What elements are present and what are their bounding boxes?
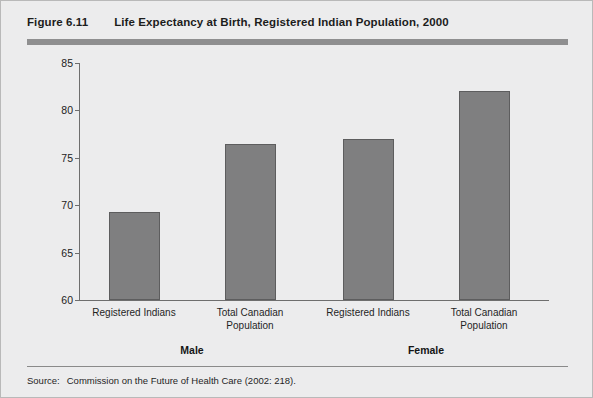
x-category-label: Registered Indians	[69, 306, 199, 319]
y-tick-mark	[75, 158, 79, 159]
chart-axes	[79, 63, 549, 301]
figure-title: Life Expectancy at Birth, Registered Ind…	[114, 16, 448, 28]
source-label: Source:	[27, 375, 60, 386]
y-axis-tick-labels: 606570758085	[47, 53, 73, 301]
figure-header: Figure 6.11 Life Expectancy at Birth, Re…	[27, 16, 566, 34]
y-tick-mark	[75, 300, 79, 301]
y-tick-mark	[75, 110, 79, 111]
y-tick-label: 75	[47, 152, 73, 164]
x-category-label-line1: Total Canadian	[185, 306, 315, 319]
bar-series	[79, 63, 549, 300]
source-text: Commission on the Future of Health Care …	[67, 375, 296, 386]
y-tick-label: 85	[47, 57, 73, 69]
x-axis-category-labels: Registered IndiansTotal CanadianPopulati…	[79, 306, 549, 340]
x-axis-group-labels: MaleFemale	[79, 344, 549, 360]
bar	[109, 212, 160, 300]
x-category-label-line2: Population	[185, 319, 315, 332]
x-category-label: Total CanadianPopulation	[185, 306, 315, 332]
x-category-label-line2: Population	[419, 319, 549, 332]
y-tick-label: 65	[47, 247, 73, 259]
x-group-label: Male	[117, 344, 267, 356]
y-tick-label: 80	[47, 104, 73, 116]
x-category-label-line1: Total Canadian	[419, 306, 549, 319]
x-category-label: Total CanadianPopulation	[419, 306, 549, 332]
y-tick-mark	[75, 205, 79, 206]
y-tick-label: 60	[47, 294, 73, 306]
y-tick-label: 70	[47, 199, 73, 211]
header-rule	[27, 39, 568, 45]
x-category-label-line1: Registered Indians	[303, 306, 433, 319]
footer-rule	[27, 366, 568, 367]
figure-panel: Figure 6.11 Life Expectancy at Birth, Re…	[0, 0, 593, 398]
x-category-label: Registered Indians	[303, 306, 433, 319]
x-axis-line	[79, 300, 549, 301]
x-group-label: Female	[351, 344, 501, 356]
y-tick-mark	[75, 253, 79, 254]
x-category-label-line1: Registered Indians	[69, 306, 199, 319]
bar	[343, 139, 394, 300]
figure-number: Figure 6.11	[27, 16, 88, 28]
bar	[225, 144, 276, 300]
y-tick-mark	[75, 63, 79, 64]
bar	[459, 91, 510, 300]
source-note: Source:Commission on the Future of Healt…	[27, 375, 296, 386]
